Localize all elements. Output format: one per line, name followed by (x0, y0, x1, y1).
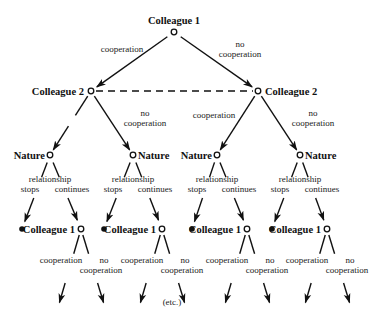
edge-label-cooperation: cooperation (80, 265, 123, 275)
edge-repeat-cooperation-upper (74, 235, 80, 254)
edge-relationship-stops-arrow (275, 198, 284, 222)
edge-label-continues: continues (305, 184, 340, 194)
nature-nodes: NatureNatureNatureNature (14, 150, 337, 161)
colleague2-left-node (88, 88, 94, 94)
edge-repeat-cooperation-upper (240, 235, 246, 254)
edge-relationship-continues-arrow (68, 198, 77, 220)
edge-relationship-continues-arrow (316, 198, 324, 220)
edge-relationship-continues-arrow (150, 198, 159, 220)
edge-label-no-cooperation: cooperation (292, 118, 335, 128)
edge-label-cooperation: cooperation (193, 110, 236, 120)
edge-label-relationship: relationship (112, 174, 155, 184)
edge-label-cooperation: cooperation (326, 265, 369, 275)
edge-label-cooperation: cooperation (206, 255, 249, 265)
edge-c2right-cooperation-arrow (220, 96, 254, 150)
edge-repeat-cooperation-upper (320, 235, 326, 254)
edge-label-no: no (100, 255, 110, 265)
edge-label-relationship: relationship (196, 174, 239, 184)
edge-repeat-no-cooperation-arrow (264, 283, 270, 303)
colleague1-repeat-node (159, 226, 165, 232)
edge-label-relationship: relationship (29, 174, 72, 184)
nature-node (214, 152, 220, 158)
colleague1-repeat-nodes: Colleague 1Colleague 1Colleague 1Colleag… (19, 224, 330, 235)
edge-relationship-stops-arrow (107, 198, 116, 222)
colleague1-repeat-node (244, 226, 250, 232)
edge-label-continues: continues (222, 184, 257, 194)
edge-repeat-no-cooperation-upper (164, 235, 170, 254)
nature-node (130, 152, 136, 158)
edge-label-no-cooperation: no (236, 39, 246, 49)
edge-relationship-stops-arrow (195, 198, 203, 222)
edge-c2left-cooperation-upper-segment (75, 96, 87, 115)
edge-relationship-stops-arrow (25, 198, 34, 222)
colleague1-repeat-label: Colleague 1 (23, 224, 75, 235)
root-player-label: Colleague 1 (148, 15, 200, 26)
edge-label-no: no (181, 255, 191, 265)
edge-label-cooperation: cooperation (246, 265, 289, 275)
edge-c2left-cooperation-arrow (53, 126, 68, 150)
edge-label-relationship: relationship (279, 174, 322, 184)
colleague1-repeat-node (324, 226, 330, 232)
edge-label-no-cooperation: no (309, 108, 319, 118)
nature-node (47, 152, 53, 158)
edge-label-stops: stops (104, 184, 123, 194)
edge-repeat-no-cooperation-upper (249, 235, 255, 254)
edge-label-cooperation: cooperation (286, 255, 329, 265)
edge-label-cooperation: cooperation (40, 255, 83, 265)
nature-label: Nature (14, 150, 46, 161)
edge-repeat-no-cooperation-upper (83, 235, 89, 254)
edge-repeat-cooperation-arrow (225, 283, 231, 303)
edge-label-stops: stops (271, 184, 290, 194)
colleague2-right-node (255, 88, 261, 94)
colleague1-repeat-label: Colleague 1 (269, 224, 321, 235)
edge-relationship-continues-arrow (234, 198, 243, 220)
edge-repeat-no-cooperation-arrow (98, 283, 104, 303)
edge-label-no-cooperation: cooperation (124, 118, 167, 128)
game-tree-diagram: Colleague 1 Colleague 2 Colleague 2 Natu… (0, 0, 378, 320)
edge-repeat-no-cooperation-upper (329, 235, 335, 254)
edge-label-no-cooperation: cooperation (219, 49, 262, 59)
nature-label: Nature (138, 150, 170, 161)
colleague1-repeat-label: Colleague 1 (104, 224, 156, 235)
edge-label-stops: stops (21, 184, 40, 194)
edge-label-stops: stops (188, 184, 207, 194)
edge-label-no: no (346, 255, 356, 265)
colleague1-repeat-node (78, 226, 84, 232)
edge-label-cooperation: cooperation (161, 265, 204, 275)
root-decision-node (171, 29, 177, 35)
nature-label: Nature (181, 150, 213, 161)
edge-repeat-cooperation-upper (155, 235, 161, 254)
nature-label: Nature (305, 150, 337, 161)
edge-label-continues: continues (55, 184, 90, 194)
edge-label-cooperation: cooperation (101, 44, 144, 54)
tree-nodes: Colleague 1 Colleague 2 Colleague 2 Natu… (14, 15, 337, 235)
edge-repeat-no-cooperation-arrow (344, 283, 350, 303)
colleague2-right-label: Colleague 2 (265, 86, 317, 97)
edge-label-cooperation: cooperation (121, 255, 164, 265)
edge-repeat-cooperation-arrow (59, 283, 65, 303)
edge-repeat-cooperation-arrow (305, 283, 311, 303)
nature-node (297, 152, 303, 158)
continuation-note: (etc.) (163, 297, 182, 307)
colleague1-repeat-label: Colleague 1 (189, 224, 241, 235)
colleague2-left-label: Colleague 2 (32, 86, 84, 97)
edge-label-no-cooperation: no (141, 108, 151, 118)
edge-label-continues: continues (138, 184, 173, 194)
edge-label-no: no (266, 255, 276, 265)
edge-repeat-cooperation-arrow (140, 283, 146, 303)
